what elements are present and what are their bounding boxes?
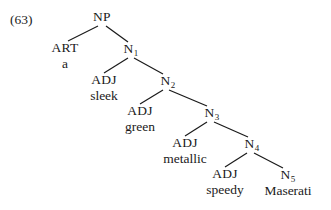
edge-n2-adj2	[140, 90, 163, 104]
node-n2-sub: 2	[171, 80, 176, 90]
edge-np-art	[68, 26, 98, 41]
node-n5-cat: N	[281, 167, 291, 182]
edge-n4-adj4	[225, 153, 247, 167]
word-speedy: speedy	[206, 183, 244, 197]
node-n3: N3	[205, 106, 220, 120]
word-maserati: Maserati	[264, 184, 311, 198]
node-np: NP	[93, 10, 111, 24]
node-adj-sleek: ADJ	[91, 73, 117, 87]
node-art: ART	[51, 41, 78, 55]
node-n4: N4	[245, 137, 260, 151]
edge-n4-n5	[254, 153, 283, 168]
node-n1: N1	[124, 42, 139, 56]
edge-n2-n3	[169, 90, 207, 106]
node-n1-cat: N	[124, 41, 134, 56]
edge-n1-adj1	[104, 58, 128, 73]
edge-n1-n2	[134, 58, 163, 74]
node-n4-cat: N	[245, 136, 255, 151]
edge-np-n1	[106, 26, 128, 42]
node-adj-green: ADJ	[127, 104, 153, 118]
word-sleek: sleek	[90, 89, 118, 103]
node-n1-sub: 1	[134, 48, 139, 58]
word-metallic: metallic	[163, 152, 206, 166]
node-n5: N5	[281, 168, 296, 182]
node-n3-cat: N	[205, 105, 215, 120]
node-n2-cat: N	[161, 73, 171, 88]
node-adj-metallic: ADJ	[172, 136, 198, 150]
node-adj-speedy: ADJ	[212, 167, 238, 181]
edge-n3-n4	[214, 122, 248, 137]
word-green: green	[125, 120, 155, 134]
word-a: a	[62, 57, 68, 71]
node-n4-sub: 4	[255, 143, 260, 153]
node-n3-sub: 3	[215, 112, 220, 122]
edge-n3-adj3	[185, 122, 207, 136]
node-n2: N2	[161, 74, 176, 88]
